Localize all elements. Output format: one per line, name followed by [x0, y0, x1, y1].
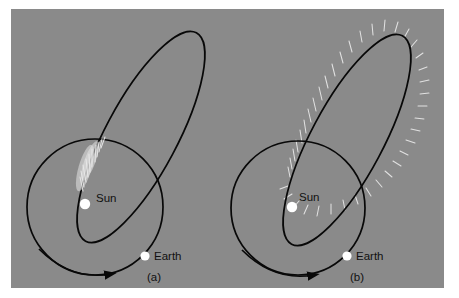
- earth-dot-a: [140, 251, 149, 260]
- earth-label-a: Earth: [154, 250, 182, 262]
- comet-orbit-ellipse-a: [54, 16, 228, 258]
- earth-dot-b: [342, 251, 351, 260]
- orbit-diagram-svg: Sun Earth (a): [11, 9, 444, 288]
- earth-direction-arrow-b: [242, 250, 314, 276]
- diagram-canvas: Sun Earth (a): [11, 9, 444, 288]
- comet-orbit-ellipse-b: [260, 19, 434, 261]
- sun-dot-b: [287, 202, 297, 212]
- panel-caption-b: (b): [350, 271, 364, 283]
- figure-root: Sun Earth (a): [0, 0, 459, 298]
- earth-direction-arrow-a: [39, 249, 111, 275]
- panel-caption-a: (a): [147, 271, 161, 283]
- sun-dot-a: [80, 199, 90, 209]
- panel-b: Sun Earth (b): [231, 19, 434, 283]
- panel-a: Sun Earth (a): [27, 16, 228, 283]
- comet-tail-near-perihelion-a: [72, 137, 105, 193]
- sun-label-a: Sun: [96, 192, 116, 204]
- earth-label-b: Earth: [356, 250, 384, 262]
- comet-tail-ticks-b: [280, 20, 429, 216]
- sun-label-b: Sun: [299, 191, 319, 203]
